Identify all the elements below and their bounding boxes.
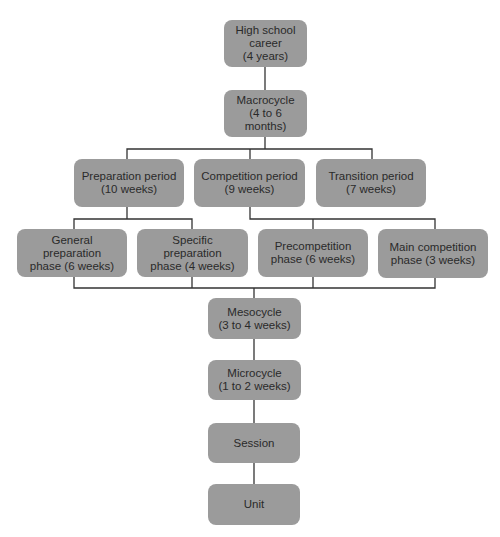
- node-unit: Unit: [208, 484, 300, 525]
- connector: [250, 207, 435, 229]
- node-session: Session: [208, 423, 300, 463]
- connector: [74, 219, 192, 229]
- node-macrocycle: Macrocycle (4 to 6 months): [224, 90, 307, 137]
- node-specific-preparation-phase: Specific preparation phase (4 weeks): [137, 229, 248, 277]
- node-main-competition-phase: Main competition phase (3 weeks): [378, 229, 488, 278]
- node-competition-period: Competition period (9 weeks): [194, 159, 305, 207]
- node-precompetition-phase: Precompetition phase (6 weeks): [258, 229, 368, 277]
- node-high-school-career: High school career (4 years): [224, 20, 307, 67]
- node-transition-period: Transition period (7 weeks): [316, 159, 426, 207]
- periodization-diagram: High school career (4 years) Macrocycle …: [0, 0, 500, 537]
- node-general-preparation-phase: General preparation phase (6 weeks): [17, 229, 127, 277]
- node-microcycle: Microcycle (1 to 2 weeks): [208, 360, 301, 400]
- node-preparation-period: Preparation period (10 weeks): [74, 159, 184, 207]
- node-mesocycle: Mesocycle (3 to 4 weeks): [208, 298, 301, 339]
- connector: [74, 277, 435, 288]
